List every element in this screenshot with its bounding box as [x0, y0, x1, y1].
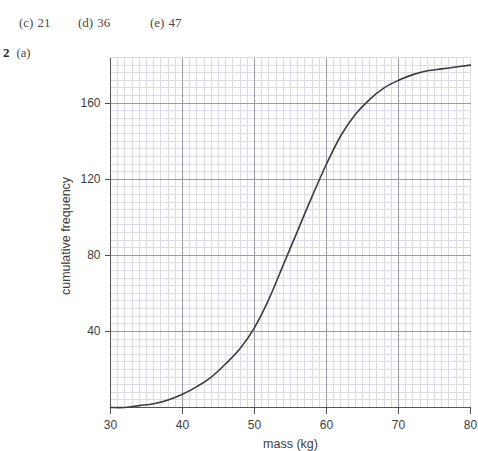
x-tick-label-30: 30 [104, 418, 117, 432]
x-tick-label-50: 50 [248, 418, 261, 432]
x-tick-label-70: 70 [392, 418, 405, 432]
y-axis-title: cumulative frequency [59, 176, 73, 294]
y-tick-label-160: 160 [65, 96, 101, 110]
x-tick-label-60: 60 [320, 418, 333, 432]
x-tick-label-80: 80 [464, 418, 477, 432]
x-tick-label-40: 40 [176, 418, 189, 432]
minor-gridlines [111, 58, 471, 408]
y-tick-label-40: 40 [65, 324, 101, 338]
x-axis-title: mass (kg) [263, 437, 318, 451]
axis-tick-marks [105, 103, 471, 413]
